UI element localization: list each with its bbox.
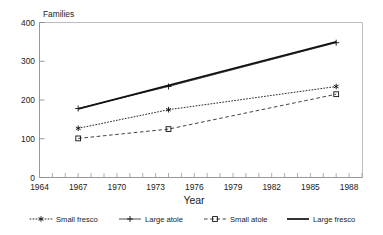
legend-label-large-atole: Large atole: [145, 215, 183, 224]
chart-legend: Small fresco Large atole Small atole Lar…: [30, 215, 355, 224]
series-small-fresco-line: [78, 87, 336, 129]
x-tick-label-1970: 1970: [108, 182, 127, 192]
legend-plus-icon: [127, 216, 133, 222]
axis-left-bottom: [40, 23, 363, 178]
marker-plus: [333, 40, 339, 46]
x-tick-label-1964: 1964: [30, 182, 49, 192]
y-tick-label-100: 100: [21, 134, 35, 144]
chart-container: 0 100 200 300 400 Families: [0, 0, 383, 235]
x-tick-label-1967: 1967: [69, 182, 88, 192]
x-tick-label-1976: 1976: [185, 182, 204, 192]
legend-item-large-atole[interactable]: Large atole: [119, 215, 183, 224]
x-tick-label-1973: 1973: [146, 182, 165, 192]
y-axis-labels: 0 100 200 300 400: [21, 18, 35, 183]
series-small-atole-line: [78, 94, 336, 138]
x-axis-minor-ticks: [40, 173, 363, 178]
frame-top-right: [40, 23, 363, 178]
y-tick-label-0: 0: [30, 173, 35, 183]
series-small-fresco-markers: [76, 84, 339, 131]
marker-asterisk: [76, 126, 81, 132]
marker-asterisk: [334, 84, 339, 90]
y-axis-title: Families: [43, 9, 74, 19]
marker-plus: [75, 106, 81, 112]
x-axis-labels: 1964 1967 1970 1973 1976 1979 1982 1985 …: [30, 182, 359, 192]
x-axis-title: Year: [183, 194, 205, 206]
plot-frame: [40, 23, 363, 178]
legend-item-large-fresco[interactable]: Large fresco: [287, 215, 355, 224]
legend-label-small-atole: Small atole: [230, 215, 268, 224]
legend-item-small-atole[interactable]: Small atole: [204, 215, 268, 224]
series-small-fresco: [76, 84, 339, 131]
y-tick-label-400: 400: [21, 18, 35, 28]
legend-label-small-fresco: Small fresco: [56, 215, 98, 224]
x-tick-label-1979: 1979: [224, 182, 243, 192]
legend-label-large-fresco: Large fresco: [313, 215, 355, 224]
line-chart: 0 100 200 300 400 Families: [0, 0, 383, 235]
y-tick-label-200: 200: [21, 95, 35, 105]
x-tick-label-1982: 1982: [262, 182, 281, 192]
x-tick-label-1985: 1985: [301, 182, 320, 192]
legend-item-small-fresco[interactable]: Small fresco: [30, 215, 98, 224]
y-tick-label-300: 300: [21, 56, 35, 66]
y-axis-ticks: [40, 23, 45, 178]
series-plot-area: [75, 40, 339, 141]
x-tick-label-1988: 1988: [340, 182, 359, 192]
